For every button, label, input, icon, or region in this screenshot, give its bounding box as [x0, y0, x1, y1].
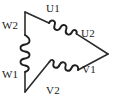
delta-winding-diagram: W2 U1 U2 V1 V2 W1: [0, 0, 114, 104]
terminal-label-v2: V2: [46, 85, 60, 96]
terminal-label-u1: U1: [46, 3, 60, 14]
terminal-label-w2: W2: [2, 20, 18, 31]
coil-u-winding: [49, 20, 77, 34]
coil-w-winding: [21, 35, 30, 72]
terminal-label-w1: W1: [2, 69, 18, 80]
coil-v-winding: [50, 60, 79, 71]
terminal-label-v1: V1: [82, 64, 96, 75]
terminal-label-u2: U2: [81, 28, 95, 39]
